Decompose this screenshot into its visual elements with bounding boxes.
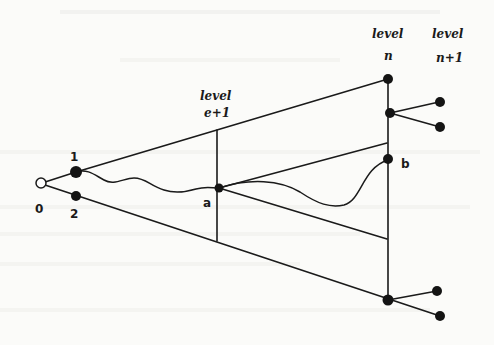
branch-lower-1: [388, 291, 437, 300]
path-a-to-b: [219, 160, 388, 206]
bleed-line: [60, 10, 440, 14]
node-level-n-top: [383, 74, 393, 84]
node-level-n-upper: [385, 108, 395, 118]
label-node-root: 0: [35, 202, 43, 216]
level-n-label-line1: level: [372, 27, 404, 41]
node-root: [36, 178, 46, 188]
level-n1-label-line2: n+1: [436, 51, 463, 65]
path-child1-to-a: [76, 171, 219, 192]
node-level-n1-4: [435, 311, 445, 321]
label-node-child2: 2: [70, 207, 78, 221]
outer-wedge-bottom-edge: [42, 184, 440, 316]
level-e1-label-line2: e+1: [204, 106, 230, 120]
bleed-line: [0, 232, 360, 236]
node-a: [215, 184, 224, 193]
bleed-line: [120, 58, 340, 62]
tree-wedge-diagram: 0 1 2 a b level e+1 level n level n+1: [0, 0, 494, 345]
label-node-child1: 1: [70, 150, 78, 164]
level-n-label-line2: n: [384, 49, 393, 63]
node-child2: [71, 191, 81, 201]
node-level-n1-2: [435, 122, 445, 132]
branch-upper-2: [390, 113, 440, 127]
label-node-b: b: [401, 157, 410, 171]
level-e1-label-line1: level: [200, 89, 232, 103]
node-b: [383, 154, 393, 164]
node-level-n-bottom: [383, 295, 394, 306]
outer-wedge-top-edge: [76, 79, 388, 172]
node-level-n1-3: [432, 286, 442, 296]
node-child1: [70, 166, 82, 178]
bleed-line: [0, 262, 300, 266]
inner-wedge-top-edge: [219, 143, 387, 188]
bleed-line: [0, 308, 430, 312]
inner-wedge-bottom-edge: [219, 188, 387, 239]
branch-upper-1: [390, 102, 439, 113]
node-level-n1-1: [435, 97, 445, 107]
level-n1-label-line1: level: [432, 27, 464, 41]
label-node-a: a: [203, 196, 211, 210]
